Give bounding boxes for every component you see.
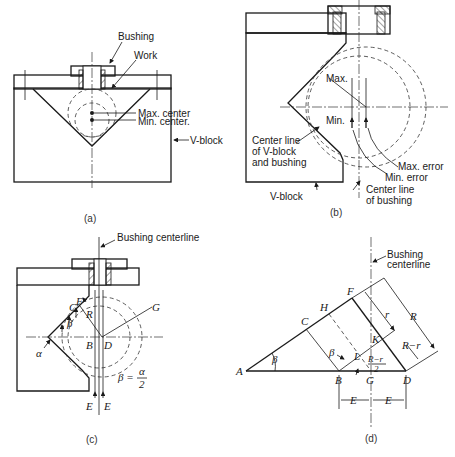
label-center-line-bushing-1: Center line: [366, 184, 415, 195]
label-E-right-c: E: [103, 400, 111, 412]
label-B-d: B: [335, 374, 342, 386]
label-r: r: [385, 308, 390, 320]
label-half-numerator: R−r: [367, 354, 384, 364]
label-min-center: Min. center.: [138, 116, 190, 127]
label-F-d: F: [346, 285, 354, 297]
caption-b: (b): [330, 207, 342, 218]
label-R-d: R: [409, 310, 417, 322]
label-D-c: D: [103, 339, 112, 351]
label-min: Min.: [326, 115, 345, 126]
panel-d: Bushing centerline A B C D F G H K L β β…: [235, 237, 438, 444]
label-C-d: C: [301, 315, 309, 327]
formula-beta-lhs: β =: [117, 371, 134, 383]
label-bushing-d-2: centerline: [387, 259, 431, 270]
label-G-d: G: [366, 374, 374, 386]
label-bushing: Bushing: [118, 31, 154, 42]
v-block-body: [14, 88, 171, 182]
v-groove: [33, 89, 150, 146]
min-center-dot: [90, 118, 94, 122]
label-L: L: [353, 350, 360, 362]
caption-c: (c): [86, 434, 98, 445]
label-E-right-d: E: [384, 394, 392, 406]
label-B-c: B: [86, 339, 93, 351]
label-beta-c: β: [66, 317, 73, 329]
caption-a: (a): [84, 213, 96, 224]
line-AF: [246, 298, 352, 371]
label-R-minus-r: R−r: [401, 339, 421, 351]
label-center-line-vblock-1: Center line: [252, 135, 301, 146]
label-A: A: [235, 365, 243, 377]
label-bushing-centerline: Bushing centerline: [117, 232, 200, 243]
label-center-line-vblock-3: and bushing: [252, 157, 307, 168]
label-E-left-d: E: [349, 394, 357, 406]
panel-c: Bushing centerline F C R β α G B D E E β…: [17, 232, 200, 445]
panel-a: Bushing Work Max. center Min. center. V-…: [14, 31, 224, 224]
label-K: K: [371, 333, 380, 345]
label-center-line-bushing-2: of bushing: [366, 195, 412, 206]
label-R-c: R: [85, 308, 93, 320]
drill-plate-b: [246, 13, 346, 33]
caption-d: (d): [365, 433, 377, 444]
label-v-block-b: V-block: [270, 191, 304, 202]
label-work: Work: [134, 50, 158, 61]
label-D-d: D: [402, 374, 411, 386]
label-half-denominator: 2: [374, 364, 379, 374]
label-max-error: Max. error: [398, 161, 444, 172]
label-center-line-vblock-2: of V-block: [252, 146, 297, 157]
label-H: H: [319, 301, 329, 313]
max-center-dot: [90, 111, 94, 115]
label-beta-A: β: [271, 353, 278, 365]
figure-canvas: Bushing Work Max. center Min. center. V-…: [0, 0, 455, 457]
formula-denominator: 2: [139, 378, 145, 390]
drill-plate-c: [17, 268, 139, 285]
label-max: Max.: [326, 73, 348, 84]
label-min-error: Min. error: [385, 172, 428, 183]
label-beta-B: β: [328, 346, 335, 358]
label-G-c: G: [152, 301, 160, 313]
label-E-left-c: E: [85, 400, 93, 412]
label-alpha-c: α: [36, 347, 42, 359]
label-C-c: C: [69, 301, 77, 313]
formula-numerator: α: [139, 365, 145, 377]
label-v-block: V-block: [190, 135, 224, 146]
panel-b: Max. Min. Center line of V-block and bus…: [246, 0, 448, 218]
